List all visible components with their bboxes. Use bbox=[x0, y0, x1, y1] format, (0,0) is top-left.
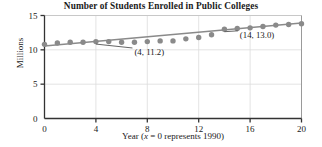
data-point bbox=[42, 42, 47, 47]
data-point bbox=[183, 36, 188, 41]
data-point bbox=[273, 22, 278, 27]
x-axis-tick-label: 8 bbox=[145, 124, 150, 134]
y-axis-tick-label: 0 bbox=[33, 114, 38, 124]
data-point bbox=[68, 40, 73, 45]
y-axis-tick-label: 10 bbox=[29, 45, 39, 55]
data-point bbox=[55, 40, 60, 45]
data-point bbox=[106, 39, 111, 44]
annotation-label: (14, 13.0) bbox=[240, 30, 275, 40]
x-axis: 048121620 bbox=[42, 119, 306, 134]
data-point bbox=[260, 24, 265, 29]
plot-area: 051015 048121620 (4, 11.2)(14, 13.0) bbox=[0, 0, 322, 147]
x-axis-tick-label: 16 bbox=[246, 124, 256, 134]
data-point bbox=[196, 35, 201, 40]
x-axis-tick-label: 12 bbox=[194, 124, 203, 134]
chart-screenshot: Number of Students Enrolled in Public Co… bbox=[0, 0, 322, 147]
data-point bbox=[222, 27, 227, 32]
data-point bbox=[80, 40, 85, 45]
data-point bbox=[170, 38, 175, 43]
data-point bbox=[132, 40, 137, 45]
data-point bbox=[93, 39, 98, 44]
data-point bbox=[145, 39, 150, 44]
annotation-leader-line bbox=[96, 44, 133, 48]
annotation-label: (4, 11.2) bbox=[134, 47, 164, 57]
x-axis-tick-label: 4 bbox=[94, 124, 99, 134]
data-point bbox=[299, 21, 304, 26]
data-point bbox=[119, 40, 124, 45]
data-point bbox=[286, 22, 291, 27]
y-axis-tick-label: 5 bbox=[33, 79, 38, 89]
data-point bbox=[157, 38, 162, 43]
y-axis: 051015 bbox=[29, 11, 45, 124]
x-axis-tick-label: 20 bbox=[297, 124, 307, 134]
data-point bbox=[209, 32, 214, 37]
y-axis-tick-label: 15 bbox=[29, 11, 39, 21]
x-axis-tick-label: 0 bbox=[42, 124, 47, 134]
